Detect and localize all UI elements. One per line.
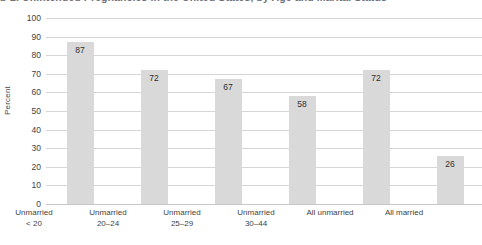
bar-value-label: 26: [437, 159, 464, 169]
y-axis-tick-label: 70: [32, 69, 41, 79]
bar-value-label: 58: [289, 99, 316, 109]
x-axis-tick-line1: Unmarried: [163, 208, 200, 217]
gridline: 90: [46, 37, 482, 38]
bar[interactable]: 72: [141, 70, 168, 204]
bar-value-label: 72: [363, 73, 390, 83]
gridline: 20: [46, 167, 482, 168]
plot-area: 100908070605040302010087Unmarried< 2072U…: [46, 18, 482, 204]
y-axis-tick-label: 80: [32, 50, 41, 60]
x-axis-tick-line1: Unmarried: [15, 208, 52, 217]
y-axis-tick-label: 20: [32, 162, 41, 172]
bar[interactable]: 87: [67, 42, 94, 204]
bar-chart: Percent 100908070605040302010087Unmarrie…: [0, 0, 482, 245]
gridline: 70: [46, 74, 482, 75]
y-axis-tick-label: 90: [32, 32, 41, 42]
gridline: 60: [46, 92, 482, 93]
gridline: 50: [46, 111, 482, 112]
x-axis-tick-line1: Unmarried: [237, 208, 274, 217]
bar-value-label: 72: [141, 73, 168, 83]
bar[interactable]: 26: [437, 156, 464, 204]
gridline: 80: [46, 55, 482, 56]
bar[interactable]: 67: [215, 79, 242, 204]
bar-value-label: 67: [215, 82, 242, 92]
y-axis-tick-label: 40: [32, 125, 41, 135]
x-axis-tick-line1: All married: [385, 208, 423, 217]
gridline: 30: [46, 148, 482, 149]
x-axis-tick-line1: Unmarried: [89, 208, 126, 217]
y-axis-label: Percent: [3, 71, 12, 131]
y-axis-tick-label: 10: [32, 180, 41, 190]
x-axis-tick-line1: All unmarried: [306, 208, 353, 217]
bar[interactable]: 58: [289, 96, 316, 204]
bar[interactable]: 72: [363, 70, 390, 204]
gridline: 40: [46, 130, 482, 131]
gridline: 10: [46, 185, 482, 186]
y-axis-tick-label: 100: [27, 13, 41, 23]
y-axis-tick-label: 30: [32, 143, 41, 153]
y-axis-tick-label: 60: [32, 87, 41, 97]
gridline: 100: [46, 18, 482, 19]
gridline: 0: [46, 204, 482, 205]
bar-value-label: 87: [67, 45, 94, 55]
y-axis-tick-label: 50: [32, 106, 41, 116]
x-axis-tick-line2: 30–44: [210, 219, 302, 230]
x-axis-tick-label: All married: [358, 208, 450, 219]
